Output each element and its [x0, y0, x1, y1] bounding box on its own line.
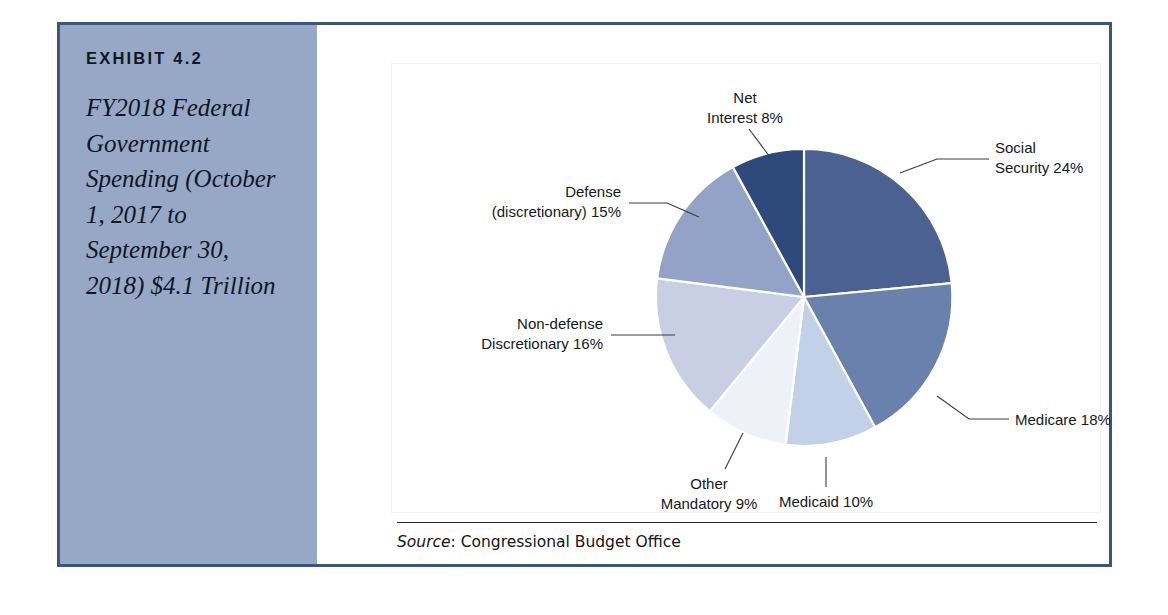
- pie-label-medicaid: Medicaid 10%: [779, 493, 873, 510]
- leader-line-net-interest: [749, 129, 770, 157]
- source-separator: :: [451, 533, 461, 551]
- source-label: Source: [397, 533, 451, 551]
- leader-line-social-security: [900, 159, 989, 173]
- pie-label-net-interest-line1: Net: [733, 89, 757, 106]
- leader-line-other-mandatory: [725, 433, 743, 469]
- exhibit-content-area: Social Security 24% Medicare 18% Medicai…: [317, 25, 1109, 564]
- pie-label-defense-line2: (discretionary) 15%: [492, 203, 621, 220]
- pie-label-defense-line1: Defense: [565, 183, 621, 200]
- pie-label-non-defense-line1: Non-defense: [517, 315, 603, 332]
- leader-line-medicare: [937, 396, 1009, 419]
- source-caption: Source: Congressional Budget Office: [397, 533, 681, 551]
- pie-label-other-mandatory-line1: Other: [690, 475, 728, 492]
- source-value: Congressional Budget Office: [461, 533, 681, 551]
- pie-slice-social-security[interactable]: [804, 149, 952, 297]
- pie-label-social-security-line2: Security 24%: [995, 159, 1083, 176]
- exhibit-page: EXHIBIT 4.2 FY2018 Federal Government Sp…: [0, 0, 1168, 615]
- exhibit-caption-panel: EXHIBIT 4.2 FY2018 Federal Government Sp…: [60, 25, 317, 564]
- exhibit-number-label: EXHIBIT 4.2: [86, 49, 291, 68]
- pie-label-non-defense-line2: Discretionary 16%: [481, 335, 603, 352]
- pie-chart: Social Security 24% Medicare 18% Medicai…: [377, 51, 1137, 521]
- pie-label-medicare: Medicare 18%: [1015, 411, 1111, 428]
- source-divider: [397, 522, 1097, 523]
- pie-label-net-interest-line2: Interest 8%: [707, 109, 783, 126]
- exhibit-title: FY2018 Federal Government Spending (Octo…: [86, 90, 291, 303]
- exhibit-frame: EXHIBIT 4.2 FY2018 Federal Government Sp…: [57, 22, 1112, 567]
- pie-label-social-security-line1: Social: [995, 139, 1036, 156]
- pie-label-other-mandatory-line2: Mandatory 9%: [661, 495, 758, 512]
